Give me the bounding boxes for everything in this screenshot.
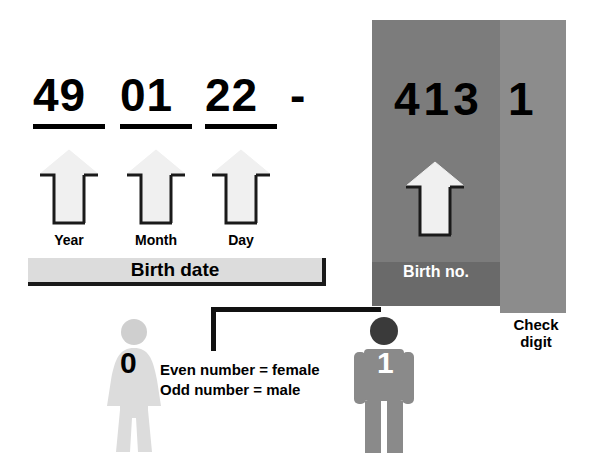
connector-horizontal bbox=[211, 307, 381, 312]
birth-number-label: Birth no. bbox=[372, 263, 500, 281]
female-digit-value: 0 bbox=[120, 348, 137, 378]
check-digit-value: 1 bbox=[508, 72, 534, 126]
separator-dash: - bbox=[290, 72, 306, 118]
month-digits: 01 bbox=[120, 72, 173, 118]
day-label: Day bbox=[201, 232, 281, 248]
month-label: Month bbox=[116, 232, 196, 248]
gender-rule-even: Even number = female bbox=[160, 360, 320, 380]
gender-rule-odd: Odd number = male bbox=[160, 380, 320, 400]
birth-date-group-bar: Birth date bbox=[28, 258, 326, 286]
year-underline bbox=[33, 124, 105, 129]
year-arrow-up-icon bbox=[38, 148, 100, 226]
gender-rules: Even number = female Odd number = male bbox=[160, 360, 320, 400]
year-label: Year bbox=[29, 232, 109, 248]
day-underline bbox=[205, 124, 277, 129]
birth-date-group-label: Birth date bbox=[28, 258, 322, 282]
year-digits: 49 bbox=[33, 72, 86, 118]
day-arrow-up-icon bbox=[210, 148, 272, 226]
connector-vertical bbox=[211, 307, 216, 351]
month-underline bbox=[120, 124, 192, 129]
month-arrow-up-icon bbox=[125, 148, 187, 226]
male-digit-value: 1 bbox=[377, 348, 394, 378]
birth-number-arrow-up-icon bbox=[404, 160, 466, 238]
day-digits: 22 bbox=[205, 72, 258, 118]
male-person-icon bbox=[352, 316, 416, 456]
check-digit-label-line1: Check bbox=[496, 316, 576, 333]
check-digit-label-line2: digit bbox=[496, 333, 576, 350]
check-digit-label: Check digit bbox=[496, 316, 576, 350]
identity-number-diagram: 49 01 22 - 413 1 bbox=[0, 0, 593, 460]
birth-number-digits: 413 bbox=[394, 72, 483, 126]
check-digit-panel bbox=[500, 20, 566, 313]
